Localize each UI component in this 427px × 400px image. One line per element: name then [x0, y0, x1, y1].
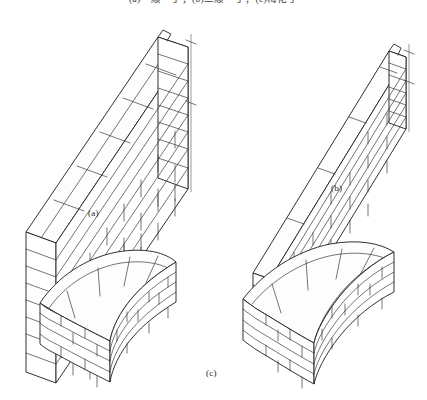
figure-sublabel-c: (c)	[206, 368, 217, 378]
figure-sublabel-a: (a)	[88, 208, 99, 218]
figure-drawing-canvas	[0, 0, 427, 400]
figure-sublabel-b: (b)	[331, 183, 342, 193]
